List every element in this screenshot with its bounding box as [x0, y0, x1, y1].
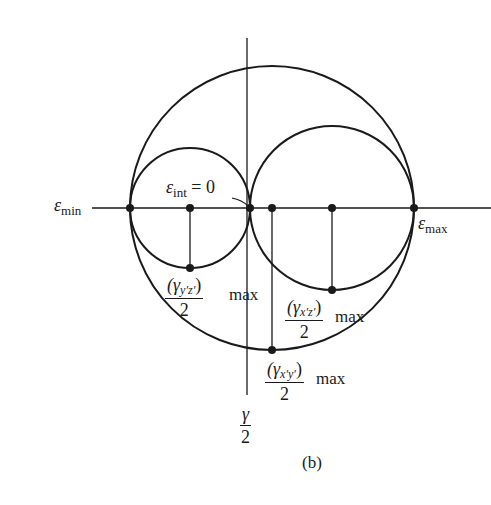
point-eps-int: [246, 204, 254, 212]
gamma-xy-den: 2: [265, 383, 304, 403]
label-gamma-xy: (γx′y′) 2: [265, 360, 304, 403]
point-gamma-yz: [186, 264, 194, 272]
label-eps-int: εint = 0: [166, 178, 215, 199]
point-center-left: [186, 204, 194, 212]
point-gamma-xz: [328, 286, 336, 294]
label-eps-min: εmin: [54, 196, 81, 217]
gamma-open: (γ: [267, 359, 280, 379]
gamma-xz-den: 2: [285, 321, 323, 341]
label-gamma-xz: (γx′z′) 2: [285, 298, 323, 341]
gamma-yz-den: 2: [165, 299, 203, 319]
gamma-close: ): [315, 297, 321, 317]
gamma-xy-sub: x′y′: [280, 367, 296, 381]
point-center-right: [328, 204, 336, 212]
point-eps-max: [410, 204, 418, 212]
gamma-axis-den: 2: [240, 426, 251, 446]
gamma-xz-sub: x′z′: [300, 305, 315, 319]
gamma-axis-num: γ: [240, 405, 251, 426]
label-gamma-yz: (γy′z′) 2: [165, 276, 203, 319]
figure-caption: (b): [302, 454, 322, 471]
label-gamma-xy-max: max: [316, 370, 345, 387]
point-center-outer: [268, 204, 276, 212]
eps-min-sub: min: [61, 203, 81, 218]
eps-max-sub: max: [425, 221, 447, 236]
point-gamma-xy: [268, 346, 276, 354]
gamma-yz-sub: y′z′: [180, 283, 195, 297]
label-gamma-yz-max: max: [229, 286, 258, 303]
eps-int-sub: int: [173, 185, 187, 200]
gamma-close: ): [296, 359, 302, 379]
gamma-close: ): [195, 275, 201, 295]
eps-int-eq: = 0: [187, 177, 215, 197]
label-gamma-axis: γ 2: [240, 405, 251, 446]
label-eps-max: εmax: [418, 214, 447, 235]
eps-int-leader: [232, 198, 248, 206]
gamma-open: (γ: [167, 275, 180, 295]
point-eps-min: [126, 204, 134, 212]
label-gamma-xz-max: max: [335, 308, 364, 325]
gamma-open: (γ: [287, 297, 300, 317]
